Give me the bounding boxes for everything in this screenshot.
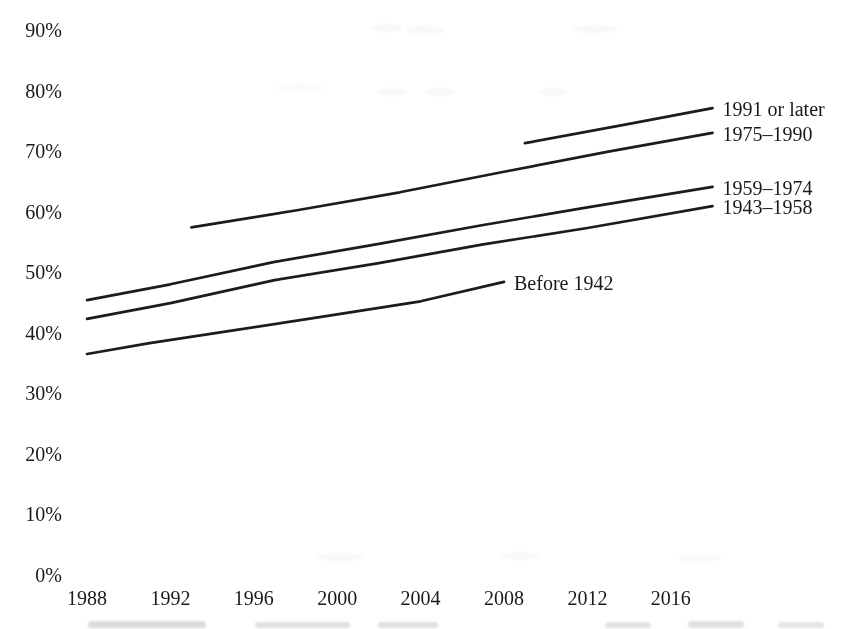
x-tick-label: 2000 [317, 587, 357, 609]
series-lines [87, 108, 713, 354]
x-tick-label: 1996 [234, 587, 274, 609]
series-line-before-1942 [87, 282, 504, 354]
chart-canvas: 90%80%70%60%50%40%30%20%10%0% 1988199219… [0, 0, 844, 629]
series-labels: 1991 or later1975–19901959–19741943–1958… [514, 98, 825, 294]
x-tick-label: 2004 [401, 587, 441, 609]
scan-artifacts [276, 24, 722, 562]
series-label-before-1942: Before 1942 [514, 272, 613, 294]
series-label-1943-1958: 1943–1958 [723, 196, 813, 218]
series-line-1975-1990 [191, 133, 712, 228]
series-label-1991-or-later: 1991 or later [723, 98, 826, 120]
y-tick-label: 30% [25, 382, 62, 404]
x-tick-label: 2008 [484, 587, 524, 609]
series-line-1943-1958 [87, 206, 713, 319]
y-tick-label: 50% [25, 261, 62, 283]
cropped-caption-fragment [88, 621, 824, 628]
x-tick-label: 1992 [150, 587, 190, 609]
x-tick-label: 2012 [567, 587, 607, 609]
y-tick-label: 90% [25, 19, 62, 41]
y-tick-label: 40% [25, 322, 62, 344]
x-tick-label: 2016 [651, 587, 691, 609]
series-label-1975-1990: 1975–1990 [723, 123, 813, 145]
x-axis-labels: 19881992199620002004200820122016 [67, 587, 691, 609]
y-axis-labels: 90%80%70%60%50%40%30%20%10%0% [25, 19, 62, 586]
y-tick-label: 80% [25, 80, 62, 102]
y-tick-label: 20% [25, 443, 62, 465]
y-tick-label: 0% [35, 564, 62, 586]
series-line-1959-1974 [87, 187, 713, 300]
y-tick-label: 60% [25, 201, 62, 223]
x-tick-label: 1988 [67, 587, 107, 609]
y-tick-label: 70% [25, 140, 62, 162]
line-chart: 90%80%70%60%50%40%30%20%10%0% 1988199219… [0, 0, 844, 629]
y-tick-label: 10% [25, 503, 62, 525]
